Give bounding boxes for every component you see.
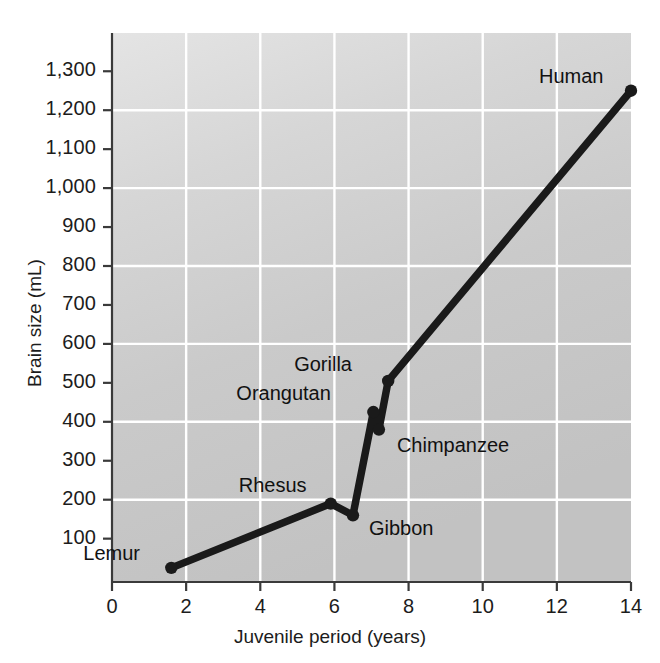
y-tick-label: 300	[0, 448, 96, 471]
y-tick-label: 800	[0, 253, 96, 276]
y-tick-label: 1,100	[0, 136, 96, 159]
y-axis-title: Brain size (mL)	[24, 193, 46, 453]
y-tick-label: 900	[0, 214, 96, 237]
y-tick-label: 600	[0, 331, 96, 354]
y-tick-marks	[103, 71, 112, 538]
x-tick-label: 10	[443, 595, 523, 618]
x-tick-label: 14	[591, 595, 660, 618]
y-tick-label: 700	[0, 292, 96, 315]
x-tick-label: 12	[517, 595, 597, 618]
y-tick-label: 500	[0, 370, 96, 393]
point-label-gibbon: Gibbon	[369, 517, 434, 540]
y-tick-label: 100	[0, 526, 96, 549]
x-tick-marks	[112, 582, 631, 591]
y-tick-label: 1,000	[0, 175, 96, 198]
point-label-orangutan: Orangutan	[236, 382, 331, 405]
y-tick-label: 1,200	[0, 97, 96, 120]
point-label-lemur: Lemur	[83, 542, 140, 565]
point-label-human: Human	[539, 65, 603, 88]
point-label-rhesus: Rhesus	[239, 474, 307, 497]
y-tick-label: 200	[0, 487, 96, 510]
y-tick-label: 400	[0, 409, 96, 432]
x-tick-label: 0	[72, 595, 152, 618]
point-label-gorilla: Gorilla	[294, 353, 352, 376]
x-tick-label: 2	[146, 595, 226, 618]
y-tick-label: 1,300	[0, 58, 96, 81]
chart-figure: 1002003004005006007008009001,0001,1001,2…	[0, 0, 660, 663]
x-tick-label: 6	[294, 595, 374, 618]
x-axis-title: Juvenile period (years)	[0, 626, 660, 648]
x-tick-label: 4	[220, 595, 300, 618]
point-label-chimpanzee: Chimpanzee	[397, 434, 509, 457]
x-tick-label: 8	[369, 595, 449, 618]
